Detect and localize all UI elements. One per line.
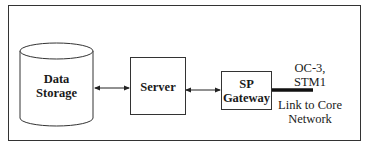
sp-gateway-label-line1: SP xyxy=(222,77,271,91)
server-box: Server xyxy=(130,57,186,115)
link-rate-line2: STM1 xyxy=(280,75,340,89)
sp-gateway-label-line2: Gateway xyxy=(222,91,271,105)
link-description-label: Link to Core Network xyxy=(272,98,348,126)
data-storage-label-line2: Storage xyxy=(20,86,93,100)
link-description-line1: Link to Core xyxy=(272,98,348,112)
link-rate-label: OC-3, STM1 xyxy=(280,61,340,89)
link-rate-line1: OC-3, xyxy=(280,61,340,75)
sp-gateway-box: SP Gateway xyxy=(221,71,272,110)
server-label: Server xyxy=(131,80,185,94)
data-storage-label-line1: Data xyxy=(20,72,93,86)
sp-gateway-label: SP Gateway xyxy=(222,77,271,105)
data-storage-label: Data Storage xyxy=(20,72,93,100)
link-description-line2: Network xyxy=(272,112,348,126)
